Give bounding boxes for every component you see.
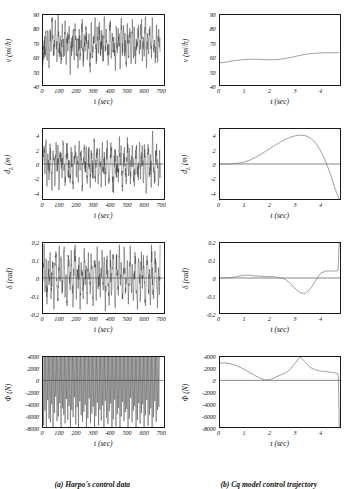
- y-tick: -0.2: [30, 311, 39, 318]
- x-tick: 400: [105, 87, 114, 94]
- x-tick: 2: [268, 429, 271, 436]
- x-tick: 200: [71, 201, 80, 208]
- y-axis-label-phi-harpo: Φ (N): [2, 356, 16, 428]
- y-tick: 90: [210, 11, 216, 18]
- y-tick: 2000: [27, 365, 39, 372]
- y-tick: 70: [33, 39, 39, 46]
- y-axis-label-delta-harpo: δ (rad): [2, 242, 16, 314]
- chart-svg-delta-model: [220, 243, 341, 313]
- y-tick: 0.1: [32, 257, 39, 264]
- y-tick: 2: [213, 146, 216, 153]
- y-tick: -2000: [26, 389, 39, 396]
- y-tick: -2: [34, 175, 39, 182]
- x-tick: 600: [139, 87, 148, 94]
- y-tick: 0: [36, 275, 39, 282]
- caption-a: (a) Harpo's control data: [4, 480, 181, 489]
- y-tick: -8000: [26, 425, 39, 432]
- y-tick: -6000: [202, 412, 215, 419]
- x-ticks-dl-harpo: 0100200300400500600700: [42, 201, 165, 211]
- panel-dl-harpo: dL (m) 4 2 0 -2 -4 010020030040050060070…: [4, 120, 181, 234]
- x-tick: 500: [122, 315, 131, 322]
- x-tick: 4: [319, 315, 322, 322]
- y-tick: -2: [211, 175, 216, 182]
- x-tick: 100: [54, 315, 63, 322]
- y-tick: -4000: [26, 401, 39, 408]
- y-ticks-dl-harpo: 4 2 0 -2 -4: [16, 128, 40, 200]
- column-harpo-control-data: v (mi/h) 90 80 70 60 50 40 0100200300400…: [4, 6, 181, 489]
- y-tick: 0: [36, 376, 39, 383]
- y-tick: -0.1: [207, 293, 216, 300]
- x-tick: 600: [139, 201, 148, 208]
- x-tick: 1: [242, 87, 245, 94]
- x-tick: 400: [105, 201, 114, 208]
- y-ticks-phi-model: 4000 2000 0 -2000 -4000 -6000 -8000: [193, 356, 217, 428]
- panel-phi-model: Φ (N) 4000 2000 0 -2000 -4000 -6000 -800…: [181, 348, 358, 472]
- y-ticks-v-model: 90 80 70 60 50 40: [193, 14, 217, 86]
- x-tick: 1: [242, 429, 245, 436]
- y-tick: 4000: [204, 353, 216, 360]
- x-axis-label-delta-harpo: t (sec): [42, 325, 165, 334]
- x-tick: 4: [319, 201, 322, 208]
- x-ticks-dl-model: 01234: [219, 201, 342, 211]
- x-axis-label-v-model: t (sec): [219, 97, 342, 106]
- y-tick: 0.2: [32, 239, 39, 246]
- x-tick: 0: [40, 87, 43, 94]
- x-tick: 2: [268, 201, 271, 208]
- x-tick: 100: [54, 87, 63, 94]
- x-ticks-phi-harpo: 0100200300400500600700: [42, 429, 165, 439]
- plot-area-dl-model: [219, 128, 342, 200]
- x-tick: 0: [217, 87, 220, 94]
- chart-svg-phi-harpo: [43, 357, 164, 427]
- y-ticks-dl-model: 4 2 0 -2 -4: [193, 128, 217, 200]
- y-tick: 4: [36, 132, 39, 139]
- x-tick: 700: [156, 201, 165, 208]
- y-tick: 80: [33, 25, 39, 32]
- chart-svg-v-model: [220, 15, 341, 85]
- x-tick: 4: [319, 87, 322, 94]
- x-ticks-delta-harpo: 0100200300400500600700: [42, 315, 165, 325]
- x-axis-label-dl-harpo: t (sec): [42, 211, 165, 220]
- x-ticks-v-model: 01234: [219, 87, 342, 97]
- panel-v-model: v (mi/h) 90 80 70 60 50 40 01234 t (sec): [181, 6, 358, 120]
- y-tick: -2000: [202, 389, 215, 396]
- x-tick: 200: [71, 315, 80, 322]
- x-tick: 700: [156, 87, 165, 94]
- x-tick: 0: [40, 315, 43, 322]
- x-tick: 3: [294, 315, 297, 322]
- y-tick: 80: [210, 25, 216, 32]
- x-tick: 0: [40, 429, 43, 436]
- x-tick: 0: [217, 429, 220, 436]
- y-tick: -4: [34, 189, 39, 196]
- y-tick: 60: [210, 54, 216, 61]
- y-tick: 0.1: [208, 257, 215, 264]
- panel-dl-model: dL (m) 4 2 0 -2 -4 01234 t (sec): [181, 120, 358, 234]
- x-tick: 300: [88, 429, 97, 436]
- x-tick: 1: [242, 315, 245, 322]
- panel-delta-model: δ (rad) 0.2 0.1 0 -0.1 -0.2 01234 t (sec…: [181, 234, 358, 348]
- x-tick: 2: [268, 87, 271, 94]
- x-tick: 200: [71, 87, 80, 94]
- x-axis-label-phi-model: t (sec): [219, 439, 342, 448]
- caption-b: (b) Cq model control trajectory: [181, 480, 358, 489]
- y-tick: 50: [210, 68, 216, 75]
- plot-area-v-model: [219, 14, 342, 86]
- x-axis-label-phi-harpo: t (sec): [42, 439, 165, 448]
- plot-area-delta-harpo: [42, 242, 165, 314]
- y-ticks-delta-model: 0.2 0.1 0 -0.1 -0.2: [193, 242, 217, 314]
- x-tick: 400: [105, 429, 114, 436]
- figure-columns: v (mi/h) 90 80 70 60 50 40 0100200300400…: [4, 6, 357, 489]
- y-tick: -6000: [26, 412, 39, 419]
- x-tick: 1: [242, 201, 245, 208]
- x-tick: 500: [122, 429, 131, 436]
- x-tick: 600: [139, 429, 148, 436]
- y-tick: -4000: [202, 401, 215, 408]
- y-tick: -0.1: [30, 293, 39, 300]
- x-axis-label-v-harpo: t (sec): [42, 97, 165, 106]
- x-tick: 100: [54, 429, 63, 436]
- plot-area-phi-harpo: [42, 356, 165, 428]
- y-tick: 0: [213, 161, 216, 168]
- x-tick: 2: [268, 315, 271, 322]
- y-tick: 2000: [204, 365, 216, 372]
- x-tick: 0: [40, 201, 43, 208]
